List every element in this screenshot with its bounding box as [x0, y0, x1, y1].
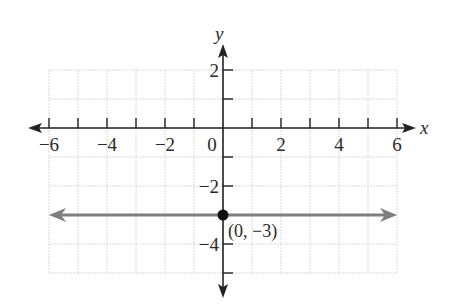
x-tick-label: −6 [39, 134, 59, 155]
x-tick-label: 6 [392, 134, 402, 155]
data-series [49, 208, 397, 222]
x-tick-label: 2 [276, 134, 286, 155]
y-tick-label: −2 [199, 176, 219, 197]
x-tick-label: −4 [97, 134, 118, 155]
coordinate-plane: −6−4−202462−2−4xy(0, −3) [0, 0, 459, 304]
x-tick-label: −2 [155, 134, 175, 155]
x-tick-label: 0 [207, 134, 217, 155]
y-tick-label: −4 [199, 234, 220, 255]
point-label: (0, −3) [228, 221, 277, 242]
axes [28, 44, 416, 298]
data-point [218, 210, 229, 221]
x-tick-label: 4 [334, 134, 344, 155]
y-tick-label: 2 [210, 60, 220, 81]
y-axis-label: y [213, 23, 224, 44]
axis-labels: −6−4−202462−2−4xy(0, −3) [39, 23, 429, 255]
x-axis-label: x [419, 117, 429, 138]
